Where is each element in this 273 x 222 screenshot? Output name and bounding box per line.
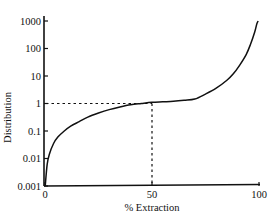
- x-tick-label: 50: [147, 189, 158, 200]
- y-tick-label: 0.01: [23, 153, 41, 164]
- guide-lines: [46, 104, 152, 187]
- x-tick-label: 0: [42, 189, 47, 200]
- x-axis-title: % Extraction: [124, 202, 180, 213]
- x-tick-label: 100: [251, 189, 267, 200]
- x-axis: [44, 185, 260, 187]
- y-tick-label: 100: [25, 43, 41, 54]
- y-tick-label: 0.001: [17, 181, 41, 192]
- y-tick-label: 1: [36, 98, 41, 109]
- distribution-chart: 0.0010.010.11101001000 050100 % Extracti…: [0, 0, 273, 222]
- y-axis-title: Distribution: [2, 91, 13, 143]
- y-tick-label: 10: [31, 71, 42, 82]
- y-tick-label: 0.1: [28, 126, 41, 137]
- y-tick-label: 1000: [20, 16, 41, 27]
